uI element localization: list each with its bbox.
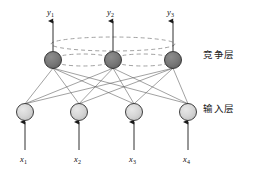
output-label-y3: y3: [167, 8, 174, 17]
weight-link: [53, 68, 79, 104]
network-diagram-canvas: [0, 0, 258, 175]
weight-connections: [25, 68, 188, 104]
output-label-y2-sub: 2: [111, 12, 114, 18]
output-arrows: [53, 21, 173, 51]
weight-link: [173, 68, 188, 104]
input-layer-nodes: [17, 104, 197, 121]
input-label-x3: x3: [129, 155, 136, 164]
input-node-3[interactable]: [126, 104, 143, 121]
weight-link: [113, 68, 134, 104]
output-label-y1-sub: 1: [51, 12, 54, 18]
input-node-1[interactable]: [17, 104, 34, 121]
weight-link: [53, 68, 188, 104]
input-arrows: [25, 122, 188, 150]
input-label-x1: x1: [20, 155, 27, 164]
input-label-x2: x2: [74, 155, 81, 164]
competitive-node-1[interactable]: [45, 52, 62, 69]
competitive-node-2[interactable]: [105, 52, 122, 69]
weight-link: [79, 68, 113, 104]
competitive-node-3[interactable]: [165, 52, 182, 69]
input-label-x1-sub: 1: [24, 159, 27, 165]
weight-link: [25, 68, 53, 104]
input-node-4[interactable]: [180, 104, 197, 121]
input-label-x4-sub: 4: [187, 159, 190, 165]
input-label-x3-sub: 3: [133, 159, 136, 165]
competitive-layer-nodes: [45, 52, 182, 69]
competitive-layer-label: 竞争层: [203, 50, 235, 60]
output-label-y3-sub: 3: [171, 12, 174, 18]
output-label-y1: y1: [47, 8, 54, 17]
input-label-x2-sub: 2: [78, 159, 81, 165]
input-label-x4: x4: [183, 155, 190, 164]
network-diagram-figure: 竞争层 输入层 y1 y2 y3 x1 x2 x3 x4: [0, 0, 258, 175]
input-node-2[interactable]: [71, 104, 88, 121]
output-label-y2: y2: [107, 8, 114, 17]
input-layer-label: 输入层: [203, 104, 235, 114]
